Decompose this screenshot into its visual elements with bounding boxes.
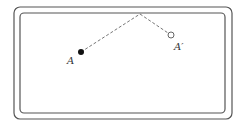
- path-segment-to-cushion: [81, 14, 140, 52]
- label-a: A: [66, 55, 74, 66]
- billiard-diagram: A A′: [0, 0, 247, 127]
- path-segment-from-cushion: [140, 14, 171, 35]
- table-outer-border: [14, 7, 232, 119]
- ball-a: [78, 49, 84, 55]
- ball-a-prime: [168, 32, 174, 38]
- label-a-prime: A′: [173, 41, 184, 52]
- table-inner-cushion: [20, 13, 225, 113]
